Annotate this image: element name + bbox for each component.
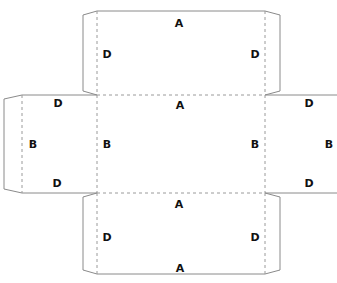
top-panel-label-right: D	[250, 49, 259, 60]
bottom-panel-label-right: D	[250, 232, 259, 243]
right-side-label-bottom: D	[304, 178, 313, 189]
middle-strip-cut-line	[4, 95, 97, 193]
center-panel-label-right: B	[251, 139, 259, 150]
bottom-panel-label-top: A	[175, 199, 184, 210]
top-panel-label-top: A	[175, 18, 184, 29]
center-panel-label-top: A	[176, 100, 185, 111]
left-side-label-top: D	[53, 98, 62, 109]
bottom-panel-label-left: D	[102, 232, 111, 243]
top-panel-label-left: D	[102, 49, 111, 60]
right-side-label-middle: B	[325, 139, 333, 150]
bottom-panel-label-bottom: A	[176, 263, 185, 274]
left-side-label-middle: B	[29, 139, 37, 150]
left-side-label-bottom: D	[52, 178, 61, 189]
right-side-label-top: D	[304, 98, 313, 109]
box-net-diagram	[0, 0, 337, 283]
center-panel-label-left: B	[103, 139, 111, 150]
